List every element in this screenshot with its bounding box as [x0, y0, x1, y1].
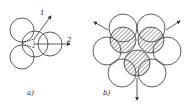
hatched-circle-left — [110, 27, 136, 53]
caption-b: b) — [103, 89, 110, 97]
arrow-1-label: 1 — [40, 9, 44, 17]
circle-top-left — [10, 18, 34, 42]
hatched-circle-right — [138, 27, 164, 53]
figure-a — [10, 16, 70, 69]
figure-b — [93, 14, 181, 100]
hatched-circle-bottom — [124, 50, 150, 76]
arrow-1 — [34, 16, 51, 39]
caption-a: a) — [27, 89, 34, 97]
circle-bottom-left — [10, 45, 34, 69]
arrow-2-label: 2 — [67, 36, 71, 44]
